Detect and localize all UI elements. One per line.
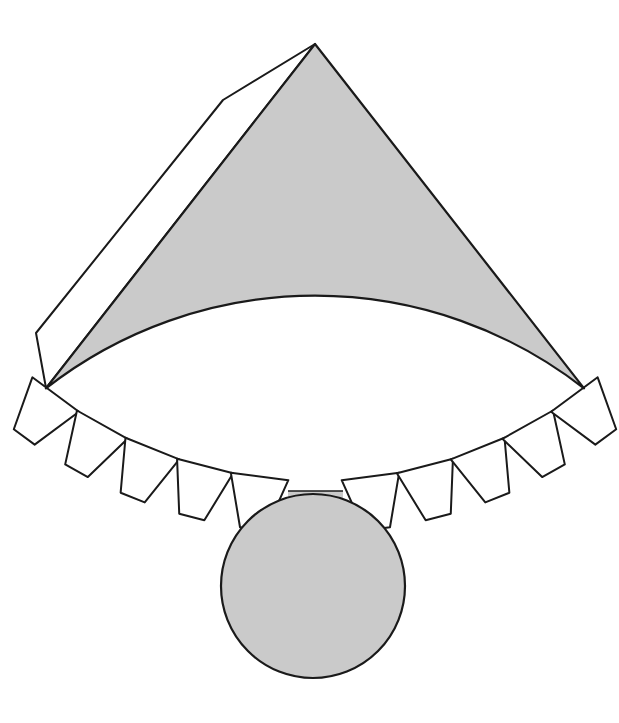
cone-net-diagram: Cone Papercraft Net Unfolded flat patter…	[0, 0, 619, 723]
cone-base-disc	[221, 494, 405, 678]
drawing-canvas: Cone Papercraft Net Unfolded flat patter…	[0, 0, 619, 723]
